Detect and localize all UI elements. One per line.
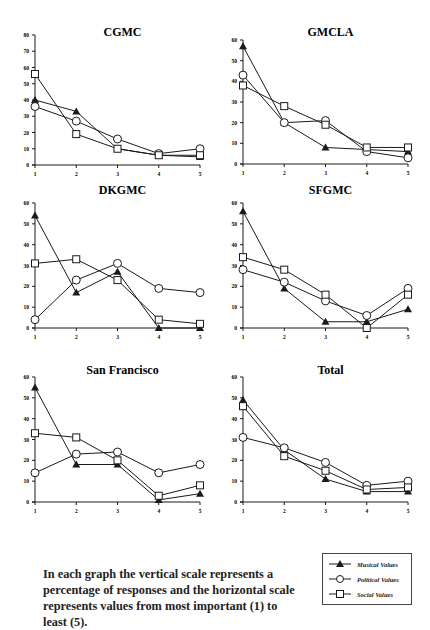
chart-title: CGMC (104, 25, 142, 39)
square-marker-icon (73, 131, 80, 138)
triangle-marker-icon (404, 488, 412, 495)
triangle-marker-icon (363, 488, 371, 495)
triangle-marker-icon (72, 461, 80, 468)
svg-text:3: 3 (324, 508, 327, 514)
triangle-marker-icon (239, 396, 247, 403)
square-marker-icon (197, 482, 204, 489)
square-marker-icon (363, 144, 370, 151)
political-values-line (243, 75, 408, 158)
musical-values-line (243, 400, 408, 492)
circle-marker-icon (155, 284, 163, 292)
figure-caption: In each graph the vertical scale represe… (43, 566, 303, 630)
triangle-marker-icon (31, 212, 39, 219)
triangle-marker-icon (322, 143, 330, 150)
svg-text:2: 2 (75, 334, 78, 340)
square-marker-icon (114, 457, 121, 464)
political-values-line (243, 437, 408, 485)
svg-text:40: 40 (24, 416, 30, 422)
square-marker-icon (73, 434, 80, 441)
svg-text:50: 50 (232, 58, 238, 64)
circle-marker-icon (72, 117, 80, 125)
social-values-line (35, 74, 200, 155)
musical-values-line (35, 387, 200, 500)
circle-marker-icon (72, 450, 80, 458)
svg-text:1: 1 (34, 171, 37, 177)
svg-text:60: 60 (24, 200, 30, 206)
square-marker-icon (281, 103, 288, 110)
svg-text:60: 60 (232, 37, 238, 43)
triangle-marker-icon (155, 151, 163, 158)
svg-text:70: 70 (24, 48, 30, 54)
legend-label: Social Values (357, 591, 393, 598)
svg-text:60: 60 (232, 200, 238, 206)
triangle-marker-icon (72, 289, 80, 296)
square-marker-icon (114, 277, 121, 284)
svg-text:3: 3 (116, 508, 119, 514)
musical-values-line (243, 46, 408, 151)
svg-text:20: 20 (232, 120, 238, 126)
square-marker-icon (281, 453, 288, 460)
political-values-line (35, 263, 200, 319)
triangle-marker-icon (322, 318, 330, 325)
political-values-line (35, 107, 200, 154)
triangle-marker-icon (329, 559, 351, 569)
svg-text:50: 50 (24, 395, 30, 401)
svg-text:3: 3 (324, 334, 327, 340)
social-values-line (243, 257, 408, 328)
square-marker-icon (32, 260, 39, 267)
svg-text:80: 80 (24, 32, 30, 38)
circle-marker-icon (31, 316, 39, 324)
square-marker-icon (197, 320, 204, 327)
svg-text:4: 4 (365, 508, 368, 514)
triangle-marker-icon (114, 268, 122, 275)
svg-text:50: 50 (24, 221, 30, 227)
circle-marker-icon (155, 469, 163, 477)
triangle-marker-icon (114, 145, 122, 152)
svg-text:2: 2 (283, 334, 286, 340)
square-marker-icon (114, 145, 121, 152)
circle-marker-icon (404, 477, 412, 485)
chart-title: DKGMC (99, 183, 146, 197)
svg-text:3: 3 (116, 171, 119, 177)
svg-text:0: 0 (26, 499, 29, 505)
circle-marker-icon (239, 71, 247, 79)
square-marker-icon (197, 152, 204, 159)
svg-text:2: 2 (283, 170, 286, 176)
svg-text:10: 10 (232, 140, 238, 146)
svg-text:40: 40 (232, 78, 238, 84)
triangle-marker-icon (31, 96, 39, 103)
svg-text:4: 4 (365, 334, 368, 340)
circle-marker-icon (280, 444, 288, 452)
svg-text:60: 60 (24, 65, 30, 71)
svg-text:3: 3 (116, 334, 119, 340)
square-marker-icon (240, 254, 247, 261)
circle-marker-icon (363, 148, 371, 156)
svg-text:1: 1 (34, 508, 37, 514)
svg-text:40: 40 (232, 242, 238, 248)
svg-text:50: 50 (232, 221, 238, 227)
circle-marker-icon (280, 119, 288, 127)
social-values-line (243, 406, 408, 489)
svg-text:20: 20 (232, 457, 238, 463)
triangle-marker-icon (239, 207, 247, 214)
chart-title: GMCLA (308, 25, 354, 39)
legend-label: Political Values (357, 576, 399, 583)
square-marker-icon (405, 144, 412, 151)
square-marker-icon (322, 291, 329, 298)
chart-title: Total (317, 363, 344, 377)
musical-values-line (243, 211, 408, 321)
triangle-marker-icon (196, 153, 204, 160)
svg-text:1: 1 (242, 508, 245, 514)
square-marker-icon (155, 152, 162, 159)
circle-marker-icon (280, 278, 288, 286)
svg-text:3: 3 (324, 170, 327, 176)
svg-text:0: 0 (234, 161, 237, 167)
triangle-marker-icon (404, 305, 412, 312)
svg-text:1: 1 (242, 170, 245, 176)
svg-text:50: 50 (24, 81, 30, 87)
triangle-marker-icon (280, 446, 288, 453)
circle-marker-icon (114, 259, 122, 267)
square-marker-icon (405, 291, 412, 298)
